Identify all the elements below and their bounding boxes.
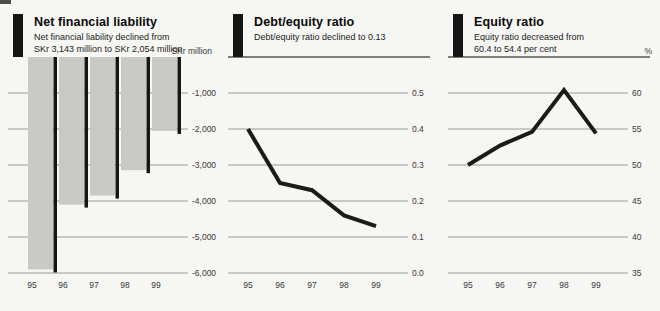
panel-net-financial-liability: Net financial liability Net financial li… — [0, 0, 220, 311]
chart-header: Debt/equity ratio Debt/equity ratio decl… — [233, 14, 386, 57]
bar-shadow-stripe — [116, 57, 120, 199]
x-tick-label: 97 — [527, 280, 537, 290]
panel-debt-equity-ratio: Debt/equity ratio Debt/equity ratio decl… — [220, 0, 440, 311]
bar — [90, 57, 115, 196]
y-tick-label: -2,000 — [192, 124, 216, 134]
chart-subtitle-line-2: 60.4 to 54.4 per cent — [474, 44, 584, 56]
chart-subtitle-line-2: SKr 3,143 million to SKr 2,054 million — [34, 44, 183, 56]
y-tick-label: -5,000 — [192, 232, 216, 242]
data-line — [468, 90, 596, 165]
bar-shadow-stripe — [85, 57, 89, 208]
x-tick-label: 95 — [463, 280, 473, 290]
bar — [121, 57, 146, 170]
title-accent-bar — [453, 14, 463, 57]
x-tick-label: 96 — [275, 280, 285, 290]
title-accent-bar — [233, 14, 243, 57]
x-tick-label: 98 — [120, 280, 130, 290]
bar-shadow-stripe — [178, 57, 182, 134]
chart-header: Net financial liability Net financial li… — [13, 14, 183, 57]
y-tick-label: -1,000 — [192, 88, 216, 98]
chart-subtitle-line-1: Equity ratio decreased from — [474, 32, 584, 44]
y-tick-label: 60 — [632, 88, 642, 98]
y-tick-label: 50 — [632, 160, 642, 170]
y-tick-label: 45 — [632, 196, 642, 206]
y-tick-label: 0.1 — [412, 232, 424, 242]
x-tick-label: 99 — [151, 280, 161, 290]
x-tick-label: 96 — [58, 280, 68, 290]
y-axis-unit-label: % — [644, 46, 652, 56]
y-tick-label: -4,000 — [192, 196, 216, 206]
y-tick-label: 0.2 — [412, 196, 424, 206]
chart-title: Equity ratio — [474, 15, 584, 29]
bar — [59, 57, 84, 205]
y-tick-label: 40 — [632, 232, 642, 242]
y-tick-label: 0.3 — [412, 160, 424, 170]
chart-title: Debt/equity ratio — [254, 15, 386, 29]
bar-shadow-stripe — [54, 57, 58, 272]
y-tick-label: 0.5 — [412, 88, 424, 98]
bar — [152, 57, 177, 131]
x-tick-label: 99 — [371, 280, 381, 290]
y-tick-label: -6,000 — [192, 268, 216, 278]
data-line — [248, 129, 376, 226]
bar — [28, 57, 53, 269]
y-tick-label: 55 — [632, 124, 642, 134]
panel-equity-ratio: Equity ratio Equity ratio decreased from… — [440, 0, 660, 311]
x-tick-label: 95 — [243, 280, 253, 290]
bar-shadow-stripe — [147, 57, 151, 173]
x-tick-label: 99 — [591, 280, 601, 290]
y-tick-label: 0.0 — [412, 268, 424, 278]
chart-title: Net financial liability — [34, 15, 183, 29]
x-tick-label: 98 — [559, 280, 569, 290]
y-tick-label: 35 — [632, 268, 642, 278]
y-tick-label: 0.4 — [412, 124, 424, 134]
title-accent-bar — [13, 14, 23, 57]
y-tick-label: -3,000 — [192, 160, 216, 170]
x-tick-label: 97 — [89, 280, 99, 290]
x-tick-label: 97 — [307, 280, 317, 290]
chart-subtitle-line-1: Debt/equity ratio declined to 0.13 — [254, 32, 386, 44]
chart-header: Equity ratio Equity ratio decreased from… — [453, 14, 584, 57]
x-tick-label: 95 — [27, 280, 37, 290]
chart-subtitle-line-1: Net financial liability declined from — [34, 32, 183, 44]
x-tick-label: 98 — [339, 280, 349, 290]
x-tick-label: 96 — [495, 280, 505, 290]
